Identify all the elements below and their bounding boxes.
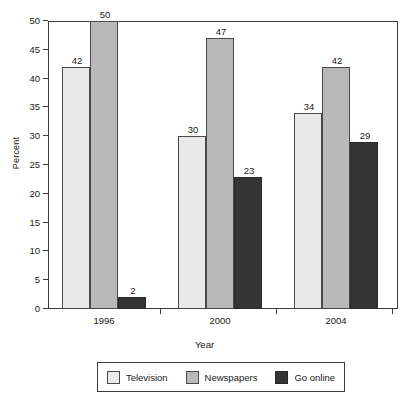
- y-tick-label: 5: [35, 274, 40, 285]
- legend-entry: Go online: [275, 371, 335, 384]
- bar-value-label: 2: [107, 285, 159, 296]
- y-axis-title: Percent: [11, 113, 21, 193]
- bar-value-label: 23: [223, 165, 275, 176]
- bar-value-label: 50: [79, 9, 131, 20]
- legend-swatch-icon: [107, 371, 120, 384]
- bar-value-label: 29: [339, 130, 391, 141]
- x-axis-group-label: 1996: [74, 315, 134, 326]
- bar: 50: [90, 21, 118, 309]
- bar: 42: [62, 67, 90, 309]
- x-axis-group-label: 2004: [306, 315, 366, 326]
- y-tick-label: 35: [29, 101, 40, 112]
- legend-entry: Television: [107, 371, 168, 384]
- x-axis-tick: [276, 309, 277, 314]
- y-tick-label: 15: [29, 217, 40, 228]
- y-tick-mark: [43, 279, 48, 280]
- y-tick-mark: [43, 78, 48, 79]
- bar: 34: [294, 113, 322, 309]
- y-tick-label: 45: [29, 44, 40, 55]
- chart-legend: TelevisionNewspapersGo online: [97, 362, 345, 392]
- y-tick-label: 10: [29, 245, 40, 256]
- x-axis-tick: [392, 309, 393, 314]
- x-axis-tick: [160, 309, 161, 314]
- bar-value-label: 42: [311, 55, 363, 66]
- y-tick-mark: [43, 164, 48, 165]
- y-tick-mark: [43, 308, 48, 309]
- y-tick-label: 40: [29, 73, 40, 84]
- y-tick-label: 0: [35, 303, 40, 314]
- y-tick-label: 20: [29, 188, 40, 199]
- y-tick-mark: [43, 135, 48, 136]
- y-tick-label: 50: [29, 15, 40, 26]
- bar: 42: [322, 67, 350, 309]
- bar-chart-figure: Percent 05101520253035404550 19962000200…: [0, 0, 409, 405]
- y-tick-mark: [43, 49, 48, 50]
- legend-label: Go online: [294, 372, 335, 383]
- y-tick-mark: [43, 20, 48, 21]
- x-axis-title: Year: [0, 339, 409, 350]
- y-tick-label: 30: [29, 130, 40, 141]
- bar: 29: [350, 142, 378, 309]
- legend-label: Television: [126, 372, 168, 383]
- y-tick-label: 25: [29, 159, 40, 170]
- bar-value-label: 47: [195, 26, 247, 37]
- y-tick-mark: [43, 106, 48, 107]
- x-axis-group-label: 2000: [190, 315, 250, 326]
- bar: 2: [118, 297, 146, 309]
- y-tick-mark: [43, 222, 48, 223]
- y-tick-mark: [43, 250, 48, 251]
- legend-swatch-icon: [275, 371, 288, 384]
- legend-label: Newspapers: [205, 372, 258, 383]
- y-tick-mark: [43, 193, 48, 194]
- bar: 23: [234, 177, 262, 309]
- legend-entry: Newspapers: [186, 371, 258, 384]
- bar: 30: [178, 136, 206, 309]
- legend-swatch-icon: [186, 371, 199, 384]
